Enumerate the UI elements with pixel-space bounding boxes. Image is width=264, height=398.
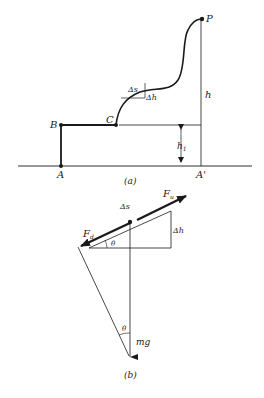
theta-arc-bottom (119, 333, 130, 335)
point-a (59, 164, 63, 168)
label-delta-s-a: Δs (127, 85, 138, 94)
point-b (59, 123, 63, 127)
label-a-prime: A' (195, 169, 206, 180)
theta-arc-top (105, 240, 107, 248)
label-mg: mg (136, 337, 151, 347)
label-h: h (205, 89, 211, 100)
label-theta-top: θ (111, 240, 116, 248)
label-h1: h1 (177, 141, 187, 152)
point-p (200, 17, 204, 21)
label-p: P (205, 13, 213, 24)
label-theta-bottom: θ (122, 325, 127, 333)
label-c: C (106, 114, 114, 125)
label-delta-s-b: Δs (119, 202, 130, 211)
label-f-d: Fd (82, 228, 94, 240)
force-resolution-line (78, 247, 129, 356)
force-up-arrow (137, 196, 186, 220)
label-b: B (49, 119, 57, 130)
label-delta-h-b: Δh (172, 226, 184, 235)
label-a: A (56, 169, 64, 180)
caption-a: (a) (124, 176, 137, 186)
figure-a: A B C P A' h h1 Δs Δh (a) (18, 13, 252, 186)
physics-diagram: A B C P A' h h1 Δs Δh (a) Fu Fd Δs Δh θ (0, 0, 264, 398)
point-c (114, 123, 118, 127)
label-delta-h-a: Δh (145, 93, 157, 102)
figure-b: Fu Fd Δs Δh θ θ mg (b) (78, 188, 186, 380)
caption-b: (b) (124, 370, 137, 380)
label-f-u: Fu (162, 188, 174, 200)
path-curve-c-to-p (116, 19, 201, 125)
